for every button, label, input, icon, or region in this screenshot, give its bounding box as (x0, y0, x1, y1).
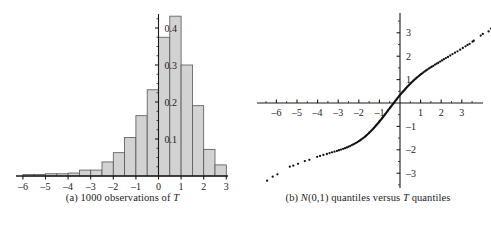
histogram-x-ticks: –6–5–4–3–2–10123 (17, 176, 229, 190)
histogram-bar (204, 149, 215, 176)
histogram-x-tick-label: 2 (201, 181, 206, 190)
qqplot-x-tick-label: –4 (312, 107, 323, 118)
qqplot-point (292, 165, 294, 167)
qqplot-point (449, 54, 451, 56)
histogram-x-tick-label: –3 (85, 181, 96, 190)
panel-a-caption-prefix: (a) 1000 observations of (66, 192, 173, 203)
qqplot-point (454, 52, 456, 54)
qqplot-point (326, 153, 328, 155)
panel-a-caption: (a) 1000 observations of T (0, 192, 245, 203)
qqplot-point (459, 49, 461, 51)
qqplot-y-tick-label: –1 (405, 121, 416, 132)
qqplot-point (266, 180, 268, 182)
qqplot-point (443, 58, 445, 60)
histogram-x-tick-label: –5 (40, 181, 51, 190)
qqplot-svg: –6–5–4–3–2–1123–3–2–1123 (245, 0, 491, 190)
histogram-x-tick-label: –6 (17, 181, 28, 190)
histogram-x-tick-label: 1 (179, 181, 184, 190)
histogram-x-tick-label: 3 (224, 181, 229, 190)
qqplot-y-tick-label: 3 (406, 27, 411, 38)
panel-b-caption: (b) N(0,1) quantiles versus T quantiles (245, 192, 491, 203)
histogram-content: 0.10.20.30.4–6–5–4–3–2–10123 (16, 14, 229, 190)
qqplot-point (480, 34, 482, 36)
histogram-bar (215, 165, 226, 176)
qqplot-point (487, 30, 489, 32)
figure-container: 0.10.20.30.4–6–5–4–3–2–10123 (a) 1000 ob… (0, 0, 491, 225)
qqplot-point (328, 152, 330, 154)
qqplot-point (289, 166, 291, 168)
qqplot-point (464, 45, 466, 47)
histogram-svg: 0.10.20.30.4–6–5–4–3–2–10123 (0, 0, 245, 190)
panel-a-histogram: 0.10.20.30.4–6–5–4–3–2–10123 (a) 1000 ob… (0, 0, 245, 225)
histogram-bars (23, 16, 226, 176)
histogram-plot-area: 0.10.20.30.4–6–5–4–3–2–10123 (0, 0, 245, 190)
histogram-bar (136, 116, 147, 176)
histogram-bar (102, 162, 113, 176)
histogram-y-tick-label: 0.4 (165, 23, 178, 34)
histogram-bar (181, 65, 192, 176)
qqplot-point (331, 151, 333, 153)
qqplot-point (456, 50, 458, 52)
panel-b-caption-suffix: quantiles (409, 192, 451, 203)
qqplot-x-minor-ticks (266, 100, 472, 104)
qqplot-point (308, 159, 310, 161)
qqplot-x-tick-label: 3 (459, 107, 464, 118)
histogram-y-tick-label: 0.3 (165, 60, 178, 71)
qqplot-x-tick-label: –6 (270, 107, 281, 118)
qqplot-x-tick-label: –3 (332, 107, 343, 118)
qqplot-point (297, 163, 299, 165)
qqplot-point (276, 173, 278, 175)
qqplot-x-tick-label: 2 (439, 107, 444, 118)
qqplot-point (319, 155, 321, 157)
panel-a-caption-symbol: T (173, 192, 179, 203)
qqplot-point (468, 43, 470, 45)
histogram-bar (192, 106, 203, 176)
panel-b-qqplot: –6–5–4–3–2–1123–3–2–1123 (b) N(0,1) quan… (245, 0, 491, 225)
qqplot-point (451, 53, 453, 55)
qqplot-point (466, 44, 468, 46)
qqplot-point (316, 156, 318, 158)
qqplot-y-tick-label: –3 (405, 168, 416, 179)
qqplot-point (340, 148, 342, 150)
histogram-y-tick-label: 0.1 (165, 134, 178, 145)
qqplot-point (482, 33, 484, 35)
histogram-x-tick-label: 0 (156, 181, 161, 190)
histogram-x-tick-label: –1 (130, 181, 141, 190)
qqplot-x-tick-label: –5 (291, 107, 302, 118)
histogram-bar (113, 153, 124, 176)
qqplot-point (304, 160, 306, 162)
qqplot-x-tick-labels: –6–5–4–3–2–1123 (270, 107, 464, 118)
panel-b-caption-mid: (0,1) quantiles versus (308, 192, 403, 203)
panel-b-caption-symbol-n: N (301, 192, 308, 203)
histogram-x-tick-label: –4 (62, 181, 73, 190)
qqplot-point (462, 47, 464, 49)
qqplot-x-tick-label: 1 (418, 107, 423, 118)
histogram-bar (79, 170, 90, 176)
qqplot-y-tick-label: 2 (406, 51, 411, 62)
qqplot-y-tick-label: –2 (405, 144, 416, 155)
qqplot-point (272, 176, 274, 178)
qqplot-plot-area: –6–5–4–3–2–1123–3–2–1123 (245, 0, 491, 190)
qqplot-point (338, 149, 340, 151)
qqplot-point (445, 57, 447, 59)
qqplot-point (473, 40, 475, 42)
qqplot-point (333, 151, 335, 153)
qqplot-x-tick-label: –2 (353, 107, 364, 118)
histogram-bar (91, 170, 102, 176)
qqplot-content: –6–5–4–3–2–1123–3–2–1123 (257, 13, 491, 188)
qqplot-point (336, 150, 338, 152)
qqplot-point (322, 154, 324, 156)
histogram-y-tick-label: 0.2 (165, 97, 178, 108)
histogram-x-tick-label: –2 (107, 181, 118, 190)
qqplot-point (447, 56, 449, 58)
panel-b-caption-prefix: (b) (286, 192, 301, 203)
qqplot-points (266, 27, 491, 181)
histogram-bar (147, 90, 158, 176)
histogram-bar (125, 138, 136, 176)
